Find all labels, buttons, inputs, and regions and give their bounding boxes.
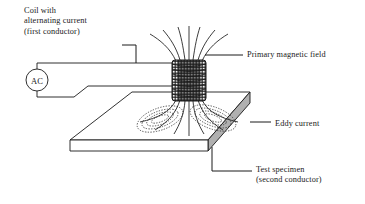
test-specimen-slab: [70, 92, 250, 151]
label-primary-magnetic-field: Primary magnetic field: [247, 50, 326, 60]
label-eddy-current: Eddy current: [275, 119, 319, 129]
label-coil: Coil with alternating current (first con…: [24, 6, 87, 37]
ac-source-label: AC: [31, 76, 43, 86]
eddy-current-diagram: AC: [0, 0, 365, 204]
coil-winding: [172, 60, 206, 101]
label-test-specimen: Test specimen (second conductor): [256, 165, 322, 186]
slab-front-face: [70, 140, 208, 151]
magnetic-field-lines-upper: [150, 26, 228, 61]
